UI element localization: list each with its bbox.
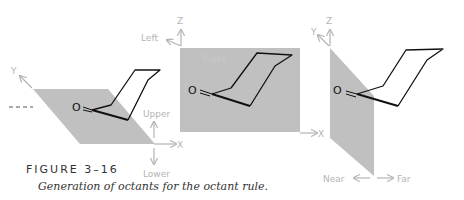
oxygen-atom-label: O bbox=[333, 84, 342, 97]
upper-label: Upper bbox=[143, 109, 171, 119]
right-label: Right bbox=[202, 54, 226, 64]
z-axis-label: Z bbox=[177, 16, 183, 26]
far-label: Far bbox=[397, 174, 411, 184]
near-label: Near bbox=[323, 174, 345, 184]
left-label: Left bbox=[141, 33, 158, 43]
x-axis-label: X bbox=[177, 140, 183, 150]
panel-xz-plane: Z Left Right X O bbox=[141, 16, 324, 139]
lower-label: Lower bbox=[143, 169, 170, 179]
y-axis-label: Y bbox=[310, 27, 317, 37]
x-axis-label: X bbox=[318, 129, 324, 139]
left-arrow-icon bbox=[167, 40, 181, 46]
y-axis-arrow-icon bbox=[20, 76, 32, 88]
figure-number: FIGURE 3–16 bbox=[26, 163, 119, 176]
xz-plane bbox=[180, 48, 300, 132]
yz-plane bbox=[330, 48, 374, 176]
z-axis-label: Z bbox=[326, 16, 332, 26]
figure-caption: Generation of octants for the octant rul… bbox=[38, 180, 268, 193]
y-axis-arrow-icon bbox=[318, 35, 329, 46]
oxygen-atom-label: O bbox=[72, 101, 81, 114]
xy-plane bbox=[33, 89, 155, 144]
oxygen-atom-label: O bbox=[188, 84, 197, 97]
panel-yz-plane: Z Y Near Far O bbox=[310, 16, 443, 184]
y-axis-label: Y bbox=[10, 66, 17, 76]
